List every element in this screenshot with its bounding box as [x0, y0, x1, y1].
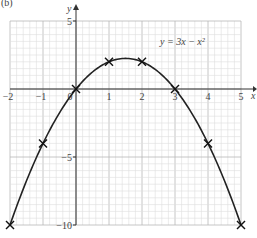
- x-axis-label: x: [250, 90, 256, 101]
- parabola-chart: −2−11234505−5−10xy y = 3x − x² (b): [0, 0, 257, 238]
- x-tick-label: 4: [206, 91, 211, 102]
- y-tick-label: −5: [61, 152, 72, 163]
- x-tick-label: 1: [107, 91, 112, 102]
- y-tick-label: −10: [56, 220, 72, 231]
- x-tick-label: 5: [239, 91, 244, 102]
- x-tick-label: −2: [3, 91, 14, 102]
- y-axis-label: y: [66, 3, 72, 14]
- x-tick-label: −1: [36, 91, 47, 102]
- axes: [10, 4, 257, 225]
- grid: [10, 21, 241, 225]
- y-tick-label: 5: [67, 16, 72, 27]
- tick-labels: −2−11234505−5−10xy: [3, 3, 256, 231]
- x-tick-label: 2: [140, 91, 145, 102]
- x-tick-label: 3: [173, 91, 178, 102]
- figure-label: (b): [1, 0, 13, 9]
- equation-label: y = 3x − x²: [159, 36, 206, 47]
